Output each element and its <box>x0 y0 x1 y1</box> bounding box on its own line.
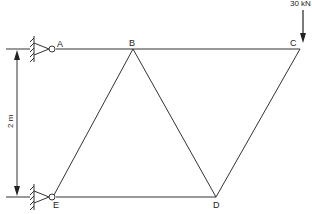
member-cd <box>216 49 300 197</box>
pin-joint-a <box>49 46 55 52</box>
pin-support-e <box>30 184 55 210</box>
member-bd <box>133 49 216 197</box>
node-label-c: C <box>290 38 297 48</box>
node-label-a: A <box>57 39 63 49</box>
node-label-e: E <box>53 200 59 210</box>
truss-diagram: A B C D E 30 kN 2 m <box>0 0 312 214</box>
pin-support-a <box>30 36 55 62</box>
dimension-label: 2 m <box>6 114 15 128</box>
node-label-b: B <box>129 38 135 48</box>
truss-members <box>54 49 300 197</box>
node-label-d: D <box>213 200 220 210</box>
load-label: 30 kN <box>290 0 311 8</box>
load-arrow <box>300 10 306 43</box>
member-be <box>54 49 133 195</box>
